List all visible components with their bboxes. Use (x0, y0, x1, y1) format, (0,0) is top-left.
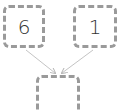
input-box-left: 6 (3, 5, 45, 48)
arrow-right-to-result (62, 50, 93, 73)
input-box-right: 1 (73, 5, 117, 48)
arrow-left-to-result (26, 50, 55, 73)
input-value-left: 6 (18, 15, 31, 39)
input-value-right: 1 (89, 15, 102, 39)
result-box[interactable] (36, 75, 80, 111)
